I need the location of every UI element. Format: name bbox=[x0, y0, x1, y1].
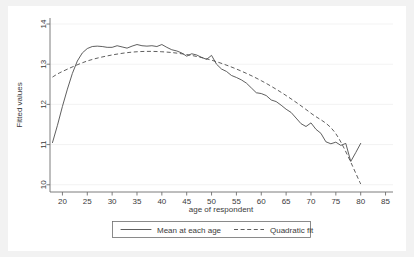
y-tick-label: 10 bbox=[39, 180, 48, 189]
legend-label-mean-at-each-age: Mean at each age bbox=[157, 226, 222, 235]
x-axis-ticks: 2025303540455055606570758085 bbox=[58, 192, 391, 206]
y-axis-title: Fitted values bbox=[15, 82, 24, 127]
x-tick-label: 40 bbox=[157, 197, 166, 206]
x-tick-label: 65 bbox=[282, 197, 291, 206]
x-tick-label: 20 bbox=[58, 197, 67, 206]
y-tick-label: 11 bbox=[39, 140, 48, 149]
y-tick-label: 13 bbox=[39, 59, 48, 68]
gridlines bbox=[50, 24, 393, 185]
line-chart: 1011121314 2025303540455055606570758085 … bbox=[0, 0, 414, 257]
y-tick-label: 14 bbox=[39, 19, 48, 28]
x-tick-label: 35 bbox=[133, 197, 142, 206]
x-tick-label: 25 bbox=[83, 197, 92, 206]
data-series-layer bbox=[52, 45, 360, 184]
x-axis-title: age of respondent bbox=[189, 205, 254, 214]
x-tick-label: 80 bbox=[356, 197, 365, 206]
y-tick-label: 12 bbox=[39, 99, 48, 108]
series-mean-at-each-age bbox=[52, 45, 360, 162]
chart-legend: Mean at each age Quadratic fit bbox=[113, 222, 314, 238]
x-tick-label: 85 bbox=[381, 197, 390, 206]
x-tick-label: 60 bbox=[257, 197, 266, 206]
axis-lines bbox=[50, 18, 393, 192]
x-tick-label: 30 bbox=[108, 197, 117, 206]
series-quadratic-fit bbox=[52, 51, 360, 184]
x-tick-label: 70 bbox=[307, 197, 316, 206]
chart-figure: 1011121314 2025303540455055606570758085 … bbox=[0, 0, 414, 257]
legend-label-quadratic-fit: Quadratic fit bbox=[270, 226, 314, 235]
x-tick-label: 75 bbox=[331, 197, 340, 206]
y-axis-ticks: 1011121314 bbox=[39, 19, 50, 189]
